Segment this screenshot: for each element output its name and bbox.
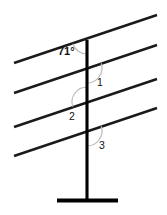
geometry-diagram: 71° 1 2 3 — [0, 0, 167, 215]
angle-label-2: 2 — [69, 111, 75, 122]
angle-label-1: 1 — [97, 77, 103, 88]
diagram-canvas — [0, 0, 167, 215]
angle-label-3: 3 — [99, 140, 105, 151]
angle-label-71: 71° — [58, 46, 75, 57]
angle-arc-71 — [73, 44, 87, 54]
